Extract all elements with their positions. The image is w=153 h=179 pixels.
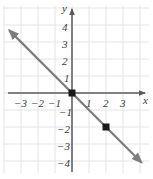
x-tick-label-neg3: −3: [14, 98, 27, 109]
coordinate-plane-figure: −3 −2 −1 1 2 3 4 3 2 1 −1 −2 −3 −4 x y: [0, 0, 153, 179]
x-tick-label-2: 2: [103, 98, 109, 109]
data-point-2-neg2: [103, 124, 110, 131]
x-axis-name: x: [143, 95, 148, 106]
y-tick-label-neg3: −3: [57, 141, 70, 152]
y-tick-label-2: 2: [62, 56, 68, 67]
y-tick-label-neg4: −4: [57, 158, 70, 169]
y-tick-label-neg2: −2: [57, 124, 70, 135]
y-tick-label-4: 4: [62, 22, 68, 33]
x-tick-label-3: 3: [120, 98, 126, 109]
graph-canvas: [0, 0, 153, 179]
y-tick-label-1: 1: [64, 73, 70, 84]
y-axis-name: y: [62, 3, 67, 14]
y-tick-label-3: 3: [62, 39, 68, 50]
y-tick-label-neg1: −1: [59, 107, 72, 118]
data-point-origin: [69, 90, 76, 97]
x-tick-label-neg2: −2: [31, 98, 44, 109]
x-tick-label-1: 1: [86, 98, 92, 109]
